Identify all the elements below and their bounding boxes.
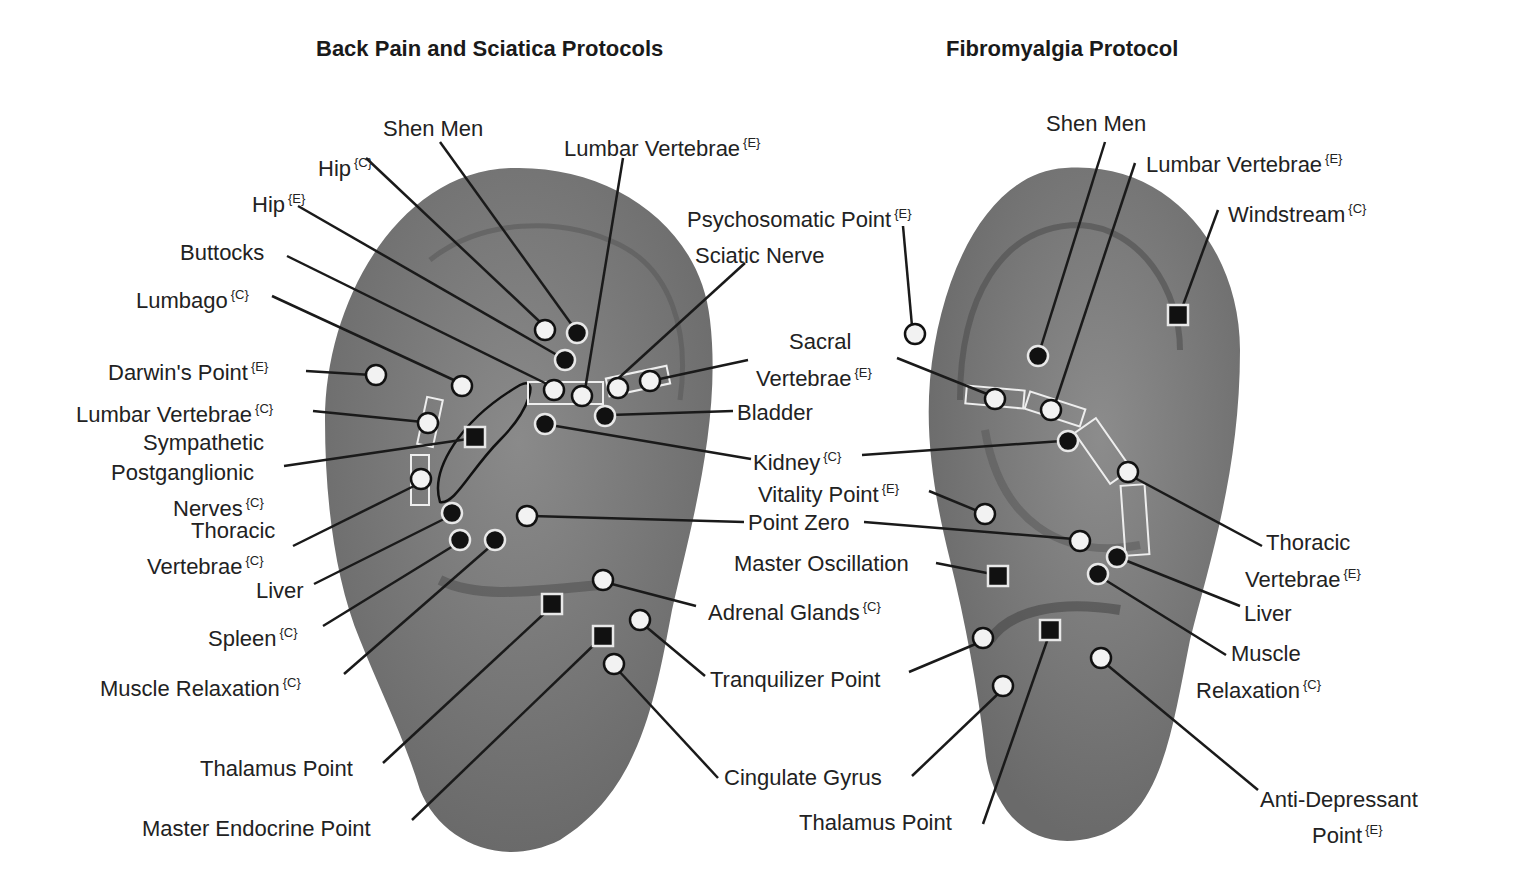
point-label: Tranquilizer Point	[710, 667, 880, 693]
point-label-text: Darwin's Point	[108, 360, 248, 385]
point-label-tag: {C}	[246, 495, 264, 510]
open-circle-marker-icon	[905, 324, 925, 344]
point-label-text: Hip	[318, 156, 351, 181]
open-circle-marker-icon	[1118, 462, 1138, 482]
point-label-text: Lumbar Vertebrae	[76, 402, 252, 427]
point-label: Adrenal Glands{C}	[708, 594, 881, 626]
point-label-text: Psychosomatic Point	[687, 207, 891, 232]
filled-circle-marker-icon	[1088, 564, 1108, 584]
square-marker-icon	[1040, 620, 1060, 640]
point-label-text: Lumbar Vertebrae	[564, 136, 740, 161]
point-label-text: Shen Men	[1046, 111, 1146, 136]
panel-title-fibromyalgia: Fibromyalgia Protocol	[946, 36, 1178, 62]
point-label-text: Thalamus Point	[799, 810, 952, 835]
point-label-text: Point	[1312, 823, 1362, 848]
point-label-text: Cingulate Gyrus	[724, 765, 882, 790]
point-label: Anti-Depressant	[1260, 787, 1418, 813]
point-label: Lumbar Vertebrae{C}	[76, 396, 273, 428]
point-label-text: Thalamus Point	[200, 756, 353, 781]
panel-title-back-pain: Back Pain and Sciatica Protocols	[316, 36, 663, 62]
open-circle-marker-icon	[640, 371, 660, 391]
point-label: Lumbago{C}	[136, 282, 249, 314]
open-circle-marker-icon	[985, 389, 1005, 409]
point-label: Muscle	[1231, 641, 1301, 667]
filled-circle-marker-icon	[595, 406, 615, 426]
point-label-text: Point Zero	[748, 510, 850, 535]
open-circle-marker-icon	[535, 320, 555, 340]
point-label-text: Tranquilizer Point	[710, 667, 880, 692]
leader-line	[903, 226, 912, 326]
square-marker-icon	[1168, 305, 1188, 325]
point-label-text: Master Oscillation	[734, 551, 909, 576]
point-label-text: Thoracic	[1266, 530, 1350, 555]
diagram-stage: Back Pain and Sciatica Protocols Fibromy…	[0, 0, 1523, 895]
point-label-tag: {E}	[743, 135, 760, 150]
point-label: Master Oscillation	[734, 551, 909, 577]
open-circle-marker-icon	[544, 380, 564, 400]
point-label: Darwin's Point{E}	[108, 354, 268, 386]
point-label: Buttocks	[180, 240, 264, 266]
point-label: Lumbar Vertebrae{E}	[1146, 146, 1342, 178]
filled-circle-marker-icon	[450, 530, 470, 550]
open-circle-marker-icon	[993, 676, 1013, 696]
open-circle-marker-icon	[1041, 400, 1061, 420]
open-circle-marker-icon	[411, 469, 431, 489]
filled-circle-marker-icon	[1058, 431, 1078, 451]
point-label: Thoracic	[1266, 530, 1350, 556]
point-label: Hip{C}	[318, 150, 372, 182]
point-label-tag: {C}	[863, 599, 881, 614]
point-label: Shen Men	[1046, 111, 1146, 137]
square-marker-icon	[465, 427, 485, 447]
point-label: Vertebrae{E}	[1245, 561, 1361, 593]
open-circle-marker-icon	[418, 413, 438, 433]
open-circle-marker-icon	[366, 365, 386, 385]
point-label-text: Vitality Point	[758, 482, 879, 507]
point-label-text: Kidney	[753, 450, 820, 475]
open-circle-marker-icon	[593, 570, 613, 590]
point-label-tag: {C}	[283, 675, 301, 690]
point-label-text: Lumbar Vertebrae	[1146, 152, 1322, 177]
point-label-text: Buttocks	[180, 240, 264, 265]
right-ear	[929, 168, 1240, 841]
point-label: Vertebrae{C}	[147, 548, 263, 580]
leader-line	[909, 643, 978, 672]
point-label-text: Master Endocrine Point	[142, 816, 371, 841]
point-label: Muscle Relaxation{C}	[100, 670, 301, 702]
point-label-text: Vertebrae	[756, 366, 851, 391]
point-label-tag: {E}	[1343, 566, 1360, 581]
open-circle-marker-icon	[517, 506, 537, 526]
point-label-text: Windstream	[1228, 202, 1345, 227]
filled-circle-marker-icon	[1107, 547, 1127, 567]
point-label: Postganglionic	[111, 460, 254, 486]
square-marker-icon	[542, 594, 562, 614]
point-label-text: Liver	[1244, 601, 1292, 626]
point-label-tag: {E}	[1365, 822, 1382, 837]
point-label-text: Adrenal Glands	[708, 600, 860, 625]
point-label: Relaxation{C}	[1196, 672, 1321, 704]
point-label-tag: {C}	[823, 449, 841, 464]
point-label-text: Anti-Depressant	[1260, 787, 1418, 812]
point-label: Point Zero	[748, 510, 850, 536]
open-circle-marker-icon	[1091, 648, 1111, 668]
point-label-text: Shen Men	[383, 116, 483, 141]
point-label-tag: {E}	[1325, 151, 1342, 166]
point-label: Thalamus Point	[200, 756, 353, 782]
point-label-text: Muscle Relaxation	[100, 676, 280, 701]
point-label-tag: {C}	[255, 401, 273, 416]
open-circle-marker-icon	[630, 610, 650, 630]
point-label: Sympathetic	[143, 430, 264, 456]
point-label: Spleen{C}	[208, 620, 298, 652]
point-label: Sacral	[789, 329, 851, 355]
point-label-text: Sacral	[789, 329, 851, 354]
open-circle-marker-icon	[975, 504, 995, 524]
point-label: Kidney{C}	[753, 444, 841, 476]
point-label-tag: {E}	[854, 365, 871, 380]
filled-circle-marker-icon	[1028, 346, 1048, 366]
square-marker-icon	[593, 626, 613, 646]
point-label: Vitality Point{E}	[758, 476, 899, 508]
point-label-text: Vertebrae	[147, 554, 242, 579]
point-label: Liver	[1244, 601, 1292, 627]
point-label: Shen Men	[383, 116, 483, 142]
point-label-text: Sympathetic	[143, 430, 264, 455]
open-circle-marker-icon	[973, 628, 993, 648]
